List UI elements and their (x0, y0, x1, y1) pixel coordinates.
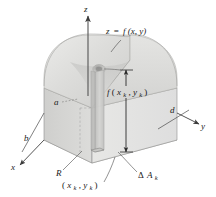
x-axis-line (20, 140, 44, 165)
column-height-x: x (116, 87, 121, 97)
delta-a-k-a: A (146, 170, 153, 180)
sample-point-y-sub: k (89, 184, 92, 191)
column-height-y-sub: k (139, 91, 142, 98)
delta-a-k-callout: Δ A k (118, 152, 158, 181)
sample-point-close: ) (95, 180, 98, 190)
surface-equation-label: z = f (x, y) (105, 26, 146, 36)
region-r-callout: R (55, 151, 82, 178)
column-height-fn: f (107, 87, 111, 97)
sample-point-x: x (66, 180, 71, 190)
surface-equation-args: (x, y) (128, 26, 146, 36)
column-prism-side (91, 71, 95, 152)
region-r-label: R (55, 168, 62, 178)
surface-equation-fn: f (123, 26, 127, 36)
delta-a-k-sub: k (155, 174, 158, 181)
delta-a-k-delta: Δ (138, 170, 144, 180)
x-axis: x (10, 140, 44, 172)
sample-point-leader (104, 157, 115, 182)
column-height-open: ( (112, 87, 115, 97)
y-axis-line (177, 113, 199, 124)
dimension-d-label: d (170, 105, 175, 115)
y-axis: y (177, 113, 205, 131)
dimension-a-label: a (54, 97, 59, 107)
x-axis-label: x (10, 162, 15, 172)
column-height-close: ) (144, 87, 147, 97)
y-axis-label: y (200, 121, 205, 131)
column-prism-body (95, 70, 104, 152)
dimension-b-label: b (24, 133, 29, 143)
sample-point-open: ( (62, 180, 65, 190)
surface-equation-lhs: z (105, 26, 110, 36)
surface-equation-eq: = (114, 26, 119, 36)
sample-point-callout: ( x k , y k ) (62, 157, 115, 192)
sample-point-y: y (82, 180, 87, 190)
delta-a-k-leader (118, 152, 137, 172)
sample-point-x-sub: k (74, 184, 77, 191)
column-height-y: y (132, 87, 137, 97)
dimension-b: b (22, 113, 44, 152)
figure-root: z y x d b a z (0, 0, 216, 197)
z-axis-label: z (83, 4, 88, 14)
delta-a-k-label: Δ A k (138, 170, 158, 181)
volume-under-surface-diagram: z y x d b a z (0, 0, 216, 197)
column-height-x-sub: k (123, 91, 126, 98)
sample-point-label: ( x k , y k ) (62, 180, 98, 192)
